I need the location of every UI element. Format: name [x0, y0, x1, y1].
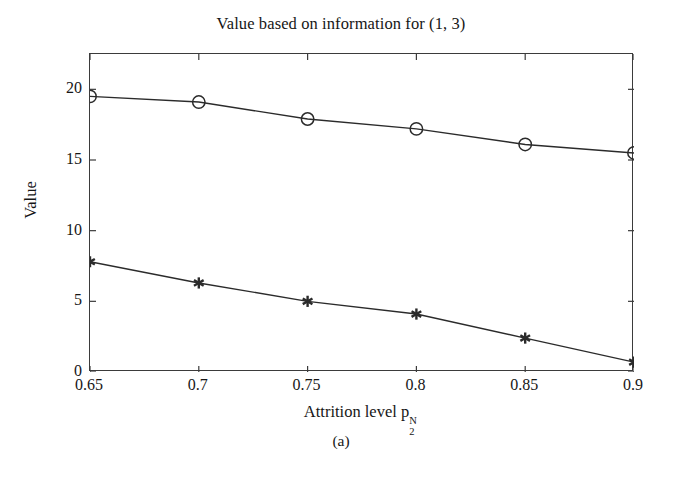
x-axis-label-superscript: N — [409, 415, 417, 426]
x-axis-tick-labels: 0.650.70.750.80.850.9 — [89, 376, 633, 400]
x-tick-label: 0.85 — [510, 376, 538, 394]
y-tick-label: 15 — [66, 150, 82, 168]
figure-panel: Value based on information for (1, 3) 05… — [0, 0, 682, 484]
data-series-group — [90, 90, 634, 368]
x-tick-label: 0.7 — [188, 376, 208, 394]
figure-caption: (a) — [0, 432, 682, 450]
data-point-asterisk-marker — [520, 332, 530, 343]
y-tick-label: 20 — [66, 79, 82, 97]
chart-title: Value based on information for (1, 3) — [0, 14, 682, 34]
x-axis-label-text: Attrition level p — [304, 402, 409, 421]
series-line-lower-curve — [90, 262, 634, 362]
x-tick-label: 0.75 — [293, 376, 321, 394]
tick-marks — [90, 54, 634, 372]
y-axis-tick-labels: 05101520 — [36, 53, 82, 371]
y-tick-label: 10 — [66, 221, 82, 239]
series-line-upper-curve — [90, 96, 634, 153]
plot-area — [89, 53, 633, 371]
x-tick-label: 0.8 — [405, 376, 425, 394]
y-axis-label: Value — [21, 155, 41, 245]
y-tick-label: 5 — [74, 291, 82, 309]
x-tick-label: 0.9 — [623, 376, 643, 394]
plot-svg — [90, 54, 634, 372]
x-axis-label: Attrition level pN2 — [89, 402, 633, 422]
x-tick-label: 0.65 — [75, 376, 103, 394]
